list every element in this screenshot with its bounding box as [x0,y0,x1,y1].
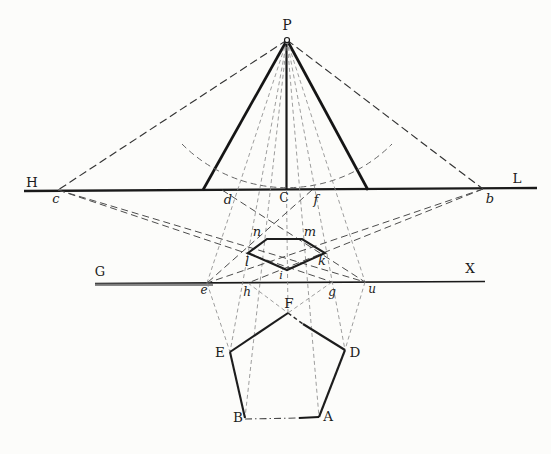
plan-edge-F-D-broken [288,313,303,324]
label-c: c [52,191,60,206]
ray-P-b [287,40,483,189]
plan-edge-B-A-dashed [245,418,299,419]
label-k: k [318,253,326,268]
projector-u-D [345,282,365,350]
label-L: L [513,170,522,186]
label-l: l [245,254,249,269]
projector-h-F [248,283,288,313]
label-E: E [215,344,225,360]
label-F: F [284,295,293,311]
label-d: d [224,192,232,207]
visual-ray-P-B [245,40,287,418]
station-point-P-marker [285,38,290,43]
label-G: G [95,264,105,279]
diagram-canvas: PHLcdCfbnmlkiGXehguFEDBA [0,0,551,454]
perspective-construction-figure: PHLcdCfbnmlkiGXehguFEDBA [0,0,551,454]
label-b: b [486,191,494,206]
label-i: i [279,269,283,282]
label-h: h [243,285,251,299]
label-e: e [200,283,207,297]
label-m: m [304,224,316,239]
label-C: C [279,190,289,205]
label-g: g [328,285,336,299]
projector-e-E [207,283,230,352]
ray-P-c [58,40,287,190]
plan-edge-F-E [230,313,288,352]
plan-edge-D-A [319,350,345,417]
label-H: H [26,174,38,190]
label-n: n [253,224,261,239]
label-P: P [282,17,291,33]
label-X: X [465,260,475,276]
plan-edge-B-A-solid [299,417,319,418]
plan-edge-F-D-solid [303,324,345,350]
label-A: A [322,408,333,424]
cone-right-leg [287,40,368,190]
label-D: D [350,344,361,360]
label-f: f [313,192,321,207]
label-u: u [368,282,376,296]
label-B: B [233,409,243,425]
